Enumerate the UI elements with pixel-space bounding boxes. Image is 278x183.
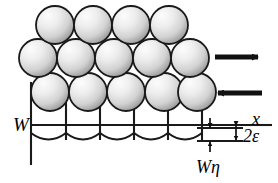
sphere bbox=[69, 73, 107, 111]
scalloped-surface-profile bbox=[31, 133, 202, 140]
sphere bbox=[19, 39, 57, 77]
sphere bbox=[95, 39, 133, 77]
label-W: W bbox=[13, 115, 29, 134]
sphere bbox=[171, 39, 209, 77]
sphere bbox=[74, 6, 112, 44]
sphere bbox=[36, 6, 74, 44]
sphere bbox=[133, 39, 171, 77]
sphere bbox=[107, 73, 145, 111]
sphere bbox=[178, 73, 216, 111]
diagram-canvas bbox=[0, 0, 278, 183]
sphere-row-middle bbox=[19, 39, 209, 77]
sphere bbox=[31, 73, 69, 111]
label-2-epsilon: 2ε bbox=[243, 127, 259, 145]
sphere bbox=[150, 6, 188, 44]
sphere bbox=[112, 6, 150, 44]
label-W-eta: Wη bbox=[196, 158, 220, 176]
sphere-row-bottom bbox=[31, 73, 216, 111]
figure-container: W x 2ε Wη bbox=[0, 0, 278, 183]
sphere bbox=[57, 39, 95, 77]
